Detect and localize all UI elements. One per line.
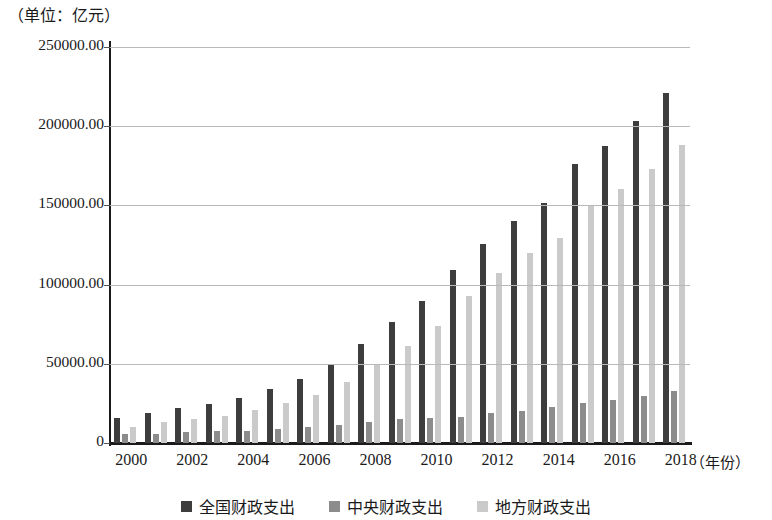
bar-local-2004 bbox=[252, 410, 258, 443]
bar-central-2005 bbox=[275, 429, 281, 443]
bar-national-2001 bbox=[145, 413, 151, 443]
bar-national-2013 bbox=[511, 221, 517, 443]
x-tick-label: 2004 bbox=[228, 451, 278, 469]
bar-national-2010 bbox=[419, 301, 425, 443]
legend-label: 中央财政支出 bbox=[347, 494, 443, 518]
y-tick-mark bbox=[104, 47, 110, 48]
legend-swatch-icon bbox=[329, 501, 340, 512]
bar-local-2010 bbox=[435, 326, 441, 443]
bar-group bbox=[419, 47, 446, 443]
bar-central-2012 bbox=[488, 413, 494, 443]
legend-swatch-icon bbox=[181, 501, 192, 512]
gridline bbox=[110, 285, 690, 286]
bar-national-2014 bbox=[541, 203, 547, 443]
bar-group bbox=[358, 47, 385, 443]
bar-local-2009 bbox=[405, 346, 411, 443]
bar-national-2017 bbox=[633, 121, 639, 443]
bar-national-2003 bbox=[206, 404, 212, 443]
bar-central-2018 bbox=[671, 391, 677, 443]
bar-group bbox=[663, 47, 690, 443]
bar-central-2001 bbox=[153, 434, 159, 443]
bar-central-2003 bbox=[214, 431, 220, 443]
x-tick-label: 2014 bbox=[534, 451, 584, 469]
bar-national-2018 bbox=[663, 93, 669, 443]
bar-group bbox=[541, 47, 568, 443]
y-tick-mark bbox=[104, 443, 110, 444]
bar-national-2007 bbox=[328, 364, 334, 443]
legend-swatch-icon bbox=[477, 501, 488, 512]
bar-local-2014 bbox=[557, 238, 563, 443]
x-tick-label: 2012 bbox=[473, 451, 523, 469]
x-tick-label: 2000 bbox=[106, 451, 156, 469]
chart-legend: 全国财政支出中央财政支出地方财政支出 bbox=[0, 494, 772, 518]
bar-group bbox=[450, 47, 477, 443]
bar-local-2011 bbox=[466, 296, 472, 443]
bar-local-2002 bbox=[191, 419, 197, 443]
x-axis-label-group: 2000200220042006200820102012201420162018 bbox=[0, 451, 772, 481]
bar-local-2008 bbox=[374, 365, 380, 443]
legend-item-central[interactable]: 中央财政支出 bbox=[329, 494, 443, 518]
bars-layer bbox=[110, 47, 690, 443]
bar-group bbox=[389, 47, 416, 443]
bar-central-2000 bbox=[122, 434, 128, 443]
legend-item-national[interactable]: 全国财政支出 bbox=[181, 494, 295, 518]
y-tick-mark bbox=[104, 285, 110, 286]
bar-national-2016 bbox=[602, 146, 608, 443]
y-axis-label-group: 250000.00200000.00150000.00100000.005000… bbox=[0, 0, 104, 520]
bar-local-2000 bbox=[130, 427, 136, 443]
x-tick-label: 2010 bbox=[412, 451, 462, 469]
legend-label: 全国财政支出 bbox=[199, 494, 295, 518]
x-axis-title: （年份） bbox=[690, 451, 750, 472]
legend-label: 地方财政支出 bbox=[495, 494, 591, 518]
bar-group bbox=[236, 47, 263, 443]
y-tick-mark bbox=[104, 126, 110, 127]
y-tick-label: 0 bbox=[4, 432, 104, 450]
bar-local-2005 bbox=[283, 403, 289, 443]
y-tick-label: 250000.00 bbox=[4, 36, 104, 54]
y-tick-label: 100000.00 bbox=[4, 274, 104, 292]
bar-national-2012 bbox=[480, 244, 486, 444]
bar-central-2009 bbox=[397, 419, 403, 443]
bar-central-2013 bbox=[519, 411, 525, 443]
x-tick-label: 2002 bbox=[167, 451, 217, 469]
bar-group bbox=[602, 47, 629, 443]
bar-national-2008 bbox=[358, 344, 364, 443]
x-tick-label: 2016 bbox=[595, 451, 645, 469]
bar-central-2010 bbox=[427, 418, 433, 443]
bar-central-2008 bbox=[366, 422, 372, 443]
bar-group bbox=[267, 47, 294, 443]
y-tick-label: 200000.00 bbox=[4, 115, 104, 133]
bar-central-2014 bbox=[549, 407, 555, 443]
bar-local-2001 bbox=[161, 422, 167, 443]
bar-central-2007 bbox=[336, 425, 342, 443]
bar-group bbox=[175, 47, 202, 443]
bar-local-2016 bbox=[618, 189, 624, 443]
bar-central-2002 bbox=[183, 432, 189, 443]
bar-national-2009 bbox=[389, 322, 395, 443]
x-tick-label: 2008 bbox=[350, 451, 400, 469]
bar-national-2004 bbox=[236, 398, 242, 443]
bar-central-2017 bbox=[641, 396, 647, 443]
bar-group bbox=[480, 47, 507, 443]
bar-national-2002 bbox=[175, 408, 181, 443]
bar-group bbox=[511, 47, 538, 443]
bar-local-2003 bbox=[222, 416, 228, 443]
fiscal-expenditure-bar-chart: （单位：亿元） 250000.00200000.00150000.0010000… bbox=[0, 0, 772, 520]
bar-local-2007 bbox=[344, 382, 350, 443]
bar-national-2011 bbox=[450, 270, 456, 443]
bar-local-2012 bbox=[496, 273, 502, 443]
gridline bbox=[110, 47, 690, 48]
bar-national-2000 bbox=[114, 418, 120, 443]
bar-group bbox=[206, 47, 233, 443]
gridline bbox=[110, 364, 690, 365]
bar-group bbox=[114, 47, 141, 443]
gridline bbox=[110, 126, 690, 127]
legend-item-local[interactable]: 地方财政支出 bbox=[477, 494, 591, 518]
x-tick-label: 2006 bbox=[289, 451, 339, 469]
y-tick-label: 150000.00 bbox=[4, 194, 104, 212]
bar-central-2006 bbox=[305, 427, 311, 443]
bar-group bbox=[297, 47, 324, 443]
bar-central-2004 bbox=[244, 431, 250, 444]
bar-group bbox=[633, 47, 660, 443]
gridline bbox=[110, 205, 690, 206]
